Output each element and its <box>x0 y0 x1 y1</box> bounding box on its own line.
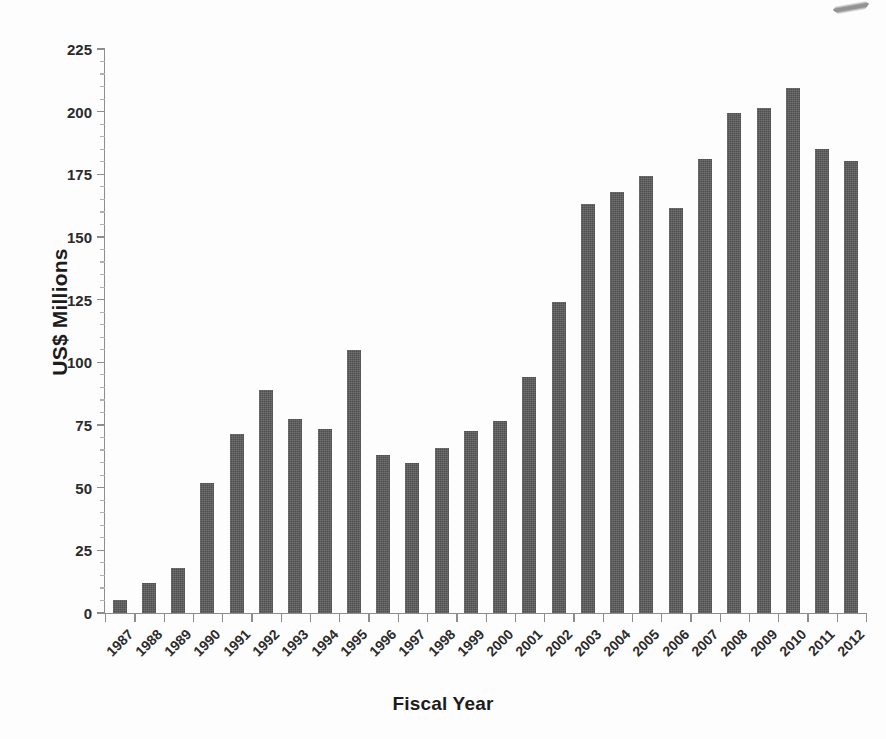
x-tick-mark <box>778 613 779 622</box>
x-tick-label: 2005 <box>630 626 663 659</box>
bar <box>844 161 858 613</box>
bar <box>698 159 712 613</box>
x-tick-label: 1988 <box>132 626 165 659</box>
bar <box>464 431 478 613</box>
x-tick-label: 1993 <box>278 626 311 659</box>
x-tick-label: 2003 <box>571 626 604 659</box>
bar <box>347 350 361 613</box>
x-tick-mark <box>690 613 691 622</box>
y-tick-mark <box>97 612 105 613</box>
bar <box>815 149 829 613</box>
x-tick-mark <box>105 613 106 622</box>
bar <box>639 176 653 613</box>
y-tick-mark <box>97 362 105 363</box>
y-tick-label: 25 <box>44 542 92 559</box>
x-tick-label: 2011 <box>805 626 838 659</box>
scan-artifact <box>833 0 869 25</box>
x-tick-label: 2006 <box>659 626 692 659</box>
bar <box>522 377 536 613</box>
x-tick-mark <box>251 613 252 622</box>
x-tick-mark <box>866 613 867 622</box>
y-tick-label: 50 <box>44 479 92 496</box>
y-tick-label: 175 <box>44 166 92 183</box>
y-tick-label: 150 <box>44 229 92 246</box>
x-tick-mark <box>515 613 516 622</box>
x-tick-mark <box>134 613 135 622</box>
x-tick-mark <box>339 613 340 622</box>
x-tick-mark <box>544 613 545 622</box>
x-tick-label: 1992 <box>249 626 282 659</box>
x-tick-label: 1996 <box>366 626 399 659</box>
x-tick-mark <box>573 613 574 622</box>
bar <box>757 108 771 613</box>
y-tick-label: 125 <box>44 291 92 308</box>
x-tick-label: 2004 <box>600 626 633 659</box>
x-tick-mark <box>837 613 838 622</box>
bar <box>288 419 302 613</box>
bar <box>200 483 214 613</box>
bar <box>552 302 566 613</box>
x-tick-label: 2008 <box>717 626 750 659</box>
bar <box>610 192 624 613</box>
y-tick-label: 75 <box>44 417 92 434</box>
y-tick-mark <box>97 48 105 49</box>
bar <box>376 455 390 613</box>
x-tick-label: 2009 <box>747 626 780 659</box>
y-tick-mark <box>97 174 105 175</box>
x-tick-mark <box>632 613 633 622</box>
x-tick-label: 1995 <box>337 626 370 659</box>
x-tick-mark <box>456 613 457 622</box>
x-tick-label: 2001 <box>513 626 546 659</box>
bar <box>230 434 244 613</box>
x-tick-mark <box>398 613 399 622</box>
bar <box>435 448 449 613</box>
bar <box>669 208 683 613</box>
x-tick-mark <box>164 613 165 622</box>
x-tick-mark <box>749 613 750 622</box>
x-tick-label: 1997 <box>395 626 428 659</box>
bar <box>727 113 741 613</box>
bar <box>113 600 127 613</box>
x-tick-label: 1999 <box>454 626 487 659</box>
x-tick-mark <box>281 613 282 622</box>
x-tick-mark <box>368 613 369 622</box>
bar <box>581 204 595 613</box>
x-tick-label: 2010 <box>776 626 809 659</box>
x-tick-mark <box>603 613 604 622</box>
x-tick-mark <box>310 613 311 622</box>
y-tick-label: 200 <box>44 103 92 120</box>
x-tick-mark <box>193 613 194 622</box>
y-tick-mark <box>97 236 105 237</box>
y-tick-label: 225 <box>44 41 92 58</box>
y-tick-label: 100 <box>44 354 92 371</box>
x-tick-mark <box>222 613 223 622</box>
bar-chart-figure: US$ Millions 0255075100125150175200225 1… <box>0 0 886 739</box>
bar <box>171 568 185 613</box>
x-tick-label: 1990 <box>191 626 224 659</box>
x-tick-mark <box>807 613 808 622</box>
x-axis-title: Fiscal Year <box>0 693 886 715</box>
y-tick-mark <box>97 487 105 488</box>
x-tick-mark <box>661 613 662 622</box>
y-tick-label: 0 <box>44 605 92 622</box>
bar <box>405 463 419 613</box>
bar <box>786 88 800 613</box>
bar <box>142 583 156 613</box>
x-tick-label: 2000 <box>483 626 516 659</box>
x-tick-label: 2002 <box>542 626 575 659</box>
x-tick-label: 1991 <box>220 626 253 659</box>
x-tick-label: 1994 <box>308 626 341 659</box>
y-tick-mark <box>97 424 105 425</box>
plot-area <box>105 49 866 613</box>
y-tick-mark <box>97 550 105 551</box>
y-tick-mark <box>97 299 105 300</box>
bar <box>318 429 332 613</box>
x-tick-mark <box>427 613 428 622</box>
x-tick-label: 1998 <box>425 626 458 659</box>
x-tick-label: 2012 <box>834 626 867 659</box>
bar <box>259 390 273 613</box>
y-tick-mark <box>97 111 105 112</box>
x-tick-mark <box>486 613 487 622</box>
x-tick-mark <box>720 613 721 622</box>
x-tick-label: 2007 <box>688 626 721 659</box>
